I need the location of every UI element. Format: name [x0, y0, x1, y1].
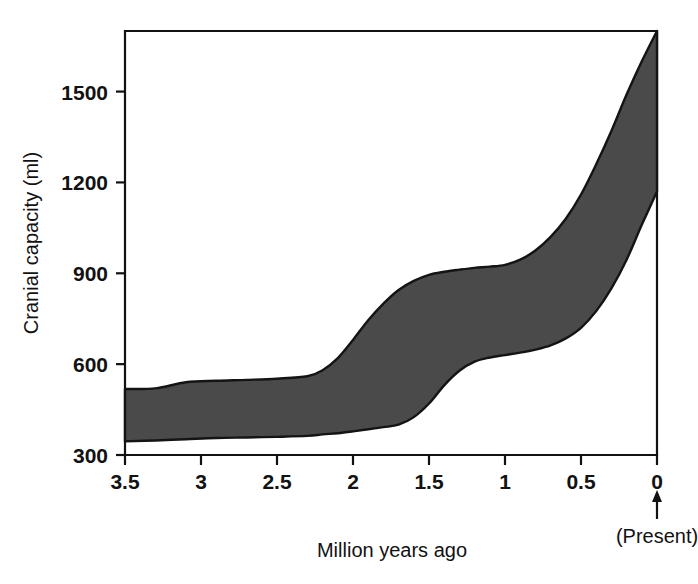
- y-axis-title: Cranial capacity (ml): [20, 152, 42, 334]
- y-tick-label: 1200: [61, 171, 108, 194]
- x-tick-label: 1: [499, 470, 511, 493]
- chart-figure: 30060090012001500 3.532.521.510.50 Crani…: [0, 0, 698, 584]
- x-tick-label: 0: [651, 470, 663, 493]
- present-annotation: (Present): [616, 490, 698, 547]
- cranial-capacity-area-chart: 30060090012001500 3.532.521.510.50 Crani…: [0, 0, 698, 584]
- x-tick-label: 2: [347, 470, 359, 493]
- x-tick-label: 3: [195, 470, 207, 493]
- y-tick-label: 900: [73, 262, 108, 285]
- y-tick-label: 600: [73, 353, 108, 376]
- present-label: (Present): [616, 525, 698, 547]
- y-axis-tick-labels: 30060090012001500: [61, 81, 108, 467]
- y-tick-label: 300: [73, 444, 108, 467]
- y-tick-label: 1500: [61, 81, 108, 104]
- x-axis-title: Million years ago: [317, 539, 467, 561]
- x-tick-label: 3.5: [110, 470, 140, 493]
- cranial-capacity-band: [125, 31, 657, 441]
- x-axis-tick-labels: 3.532.521.510.50: [110, 470, 662, 493]
- y-axis-ticks: [116, 92, 125, 455]
- x-tick-label: 2.5: [262, 470, 292, 493]
- x-tick-label: 1.5: [414, 470, 444, 493]
- x-axis-ticks: [125, 455, 657, 465]
- x-tick-label: 0.5: [566, 470, 596, 493]
